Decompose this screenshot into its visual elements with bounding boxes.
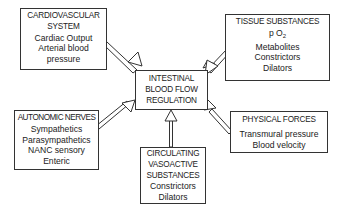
circulating-title-1: CIRCULATING (141, 149, 205, 160)
cardiovascular-title-1: CARDIOVASCULAR (21, 11, 106, 22)
tissue-item-po2: p O2 (226, 28, 329, 42)
arrow-circulating-to-center (165, 110, 177, 147)
box-cardiovascular-system: CARDIOVASCULAR SYSTEM Cardiac Output Art… (20, 8, 107, 70)
autonomic-title: AUTONOMIC NERVES (15, 113, 98, 124)
arrow-autonomic-to-center (96, 100, 135, 129)
box-autonomic-nerves: AUTONOMIC NERVES Sympathetics Parasympat… (14, 110, 99, 170)
po2-label: p O (269, 28, 283, 38)
tissue-title: TISSUE SUBSTANCES (226, 17, 329, 28)
circulating-item-constrictors: Constrictors (141, 181, 205, 192)
cardiovascular-item-pressure: pressure (21, 54, 106, 65)
physical-item-blood-velocity: Blood velocity (231, 140, 327, 151)
autonomic-item-parasympathetics: Parasympathetics (15, 135, 98, 146)
cardiovascular-item-cardiac-output: Cardiac Output (21, 33, 106, 44)
arrow-cardiovascular-to-center (104, 42, 142, 73)
circulating-title-3: SUBSTANCES (141, 171, 205, 182)
box-tissue-substances: TISSUE SUBSTANCES p O2 Metabolites Const… (225, 14, 330, 81)
physical-item-transmural-pressure: Transmural pressure (231, 129, 327, 140)
box-physical-forces: PHYSICAL FORCES Transmural pressure Bloo… (230, 111, 328, 153)
po2-subscript: 2 (283, 33, 286, 39)
center-line-1: INTESTINAL (136, 74, 207, 85)
tissue-item-dilators: Dilators (226, 63, 329, 74)
autonomic-item-nanc-sensory: NANC sensory (15, 145, 98, 156)
circulating-title-2: VASOACTIVE (141, 160, 205, 171)
center-line-3: REGULATION (136, 96, 207, 107)
cardiovascular-title-2: SYSTEM (21, 22, 106, 33)
arrow-physical-to-center (204, 100, 232, 134)
cardiovascular-item-arterial-blood: Arterial blood (21, 43, 106, 54)
autonomic-item-enteric: Enteric (15, 156, 98, 167)
box-circulating-vasoactive-substances: CIRCULATING VASOACTIVE SUBSTANCES Constr… (140, 147, 206, 204)
circulating-item-dilators: Dilators (141, 192, 205, 203)
physical-title: PHYSICAL FORCES (231, 115, 327, 126)
box-intestinal-blood-flow-regulation: INTESTINAL BLOOD FLOW REGULATION (135, 70, 208, 110)
tissue-item-constrictors: Constrictors (226, 52, 329, 63)
center-line-2: BLOOD FLOW (136, 85, 207, 96)
autonomic-item-sympathetics: Sympathetics (15, 124, 98, 135)
tissue-item-metabolites: Metabolites (226, 42, 329, 53)
